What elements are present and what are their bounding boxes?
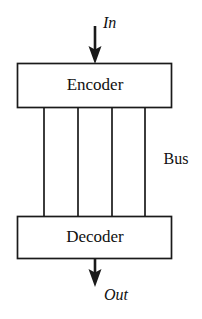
in-arrow — [89, 26, 102, 64]
encoder-block: Encoder — [18, 64, 172, 108]
decoder-label: Decoder — [66, 227, 124, 246]
in-label: In — [102, 14, 116, 31]
bus-lines — [44, 108, 145, 216]
encoder-label: Encoder — [67, 75, 124, 94]
bus-label: Bus — [164, 150, 189, 167]
decoder-block: Decoder — [18, 217, 172, 259]
block-diagram: In Encoder Bus Decoder Out — [0, 0, 202, 319]
diagram-canvas: In Encoder Bus Decoder Out — [0, 0, 202, 319]
out-label: Out — [104, 286, 129, 303]
out-arrow — [89, 259, 102, 287]
